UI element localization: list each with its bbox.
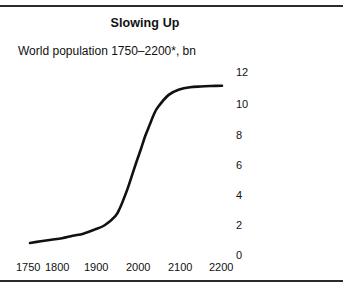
y-tick-label: 6 — [236, 160, 262, 171]
x-tick-label: 2100 — [168, 262, 192, 273]
y-tick-label: 12 — [236, 67, 262, 78]
population-curve-path — [30, 86, 222, 243]
x-tick-label: 1900 — [84, 262, 108, 273]
y-tick-label: 10 — [236, 99, 262, 110]
y-tick-label: 4 — [236, 190, 262, 201]
x-tick-label: 1750 — [16, 262, 40, 273]
y-tick-label: 8 — [236, 130, 262, 141]
x-tick-label: 2200 — [209, 262, 233, 273]
chart-figure: Slowing Up World population 1750–2200*, … — [0, 0, 343, 292]
bottom-divider-rule — [0, 280, 343, 282]
y-tick-label: 2 — [236, 220, 262, 231]
population-line-series — [0, 0, 343, 292]
plot-area — [0, 0, 343, 292]
y-tick-label: 0 — [236, 250, 262, 261]
x-tick-label: 2000 — [126, 262, 150, 273]
x-tick-label: 1800 — [45, 262, 69, 273]
